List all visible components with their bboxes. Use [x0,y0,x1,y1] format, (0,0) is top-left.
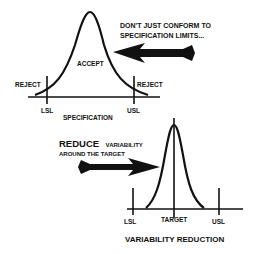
reject-right-label: REJECT [137,81,163,88]
accept-label: ACCEPT [77,60,104,67]
reduce-caption: REDUCE VARIABILITY [59,133,143,150]
reduce-word: REDUCE [59,138,99,149]
specification-label: SPECIFICATION [63,114,113,121]
variability-diagram: DON'T JUST CONFORM TO SPECIFICATION LIMI… [0,0,254,254]
target-label: TARGET [161,216,187,223]
right-arrow-icon [78,158,160,176]
bottom-usl-label: USL [212,218,225,225]
reject-left-label: REJECT [15,81,41,88]
top-panel: DON'T JUST CONFORM TO SPECIFICATION LIMI… [15,12,212,121]
caption-line1: DON'T JUST CONFORM TO [120,22,212,29]
left-arrow-icon [113,43,195,63]
caption-line2: SPECIFICATION LIMITS... [120,32,204,39]
variability-reduction-title: VARIABILITY REDUCTION [125,235,224,244]
variability-word: VARIABILITY [106,142,143,148]
bottom-lsl-label: LSL [124,218,136,225]
lsl-label: LSL [41,107,53,114]
bottom-panel: REDUCE VARIABILITY AROUND THE TARGET LSL… [59,118,243,244]
around-target-caption: AROUND THE TARGET [59,151,125,157]
usl-label: USL [127,107,140,114]
